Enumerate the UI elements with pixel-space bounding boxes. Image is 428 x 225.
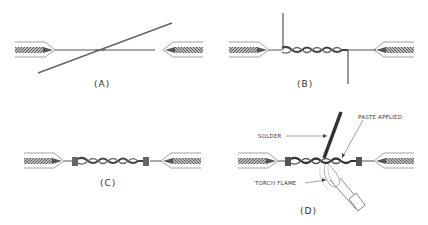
panel-a-drawing xyxy=(15,23,203,73)
wire-splice-diagram xyxy=(0,0,428,225)
panel-label-a: (A) xyxy=(94,79,110,89)
panel-b-drawing xyxy=(229,13,414,84)
panel-label-c: (C) xyxy=(100,178,116,188)
callout-paste-applied: PASTE APPLIED xyxy=(358,114,402,120)
callout-torch-flame: TORCH FLAME xyxy=(255,180,297,186)
panel-d-drawing xyxy=(238,112,414,211)
panel-label-d: (D) xyxy=(300,206,317,216)
panel-c-drawing xyxy=(24,153,201,168)
panel-label-b: (B) xyxy=(297,79,313,89)
callout-solder: SOLDER xyxy=(258,133,282,139)
